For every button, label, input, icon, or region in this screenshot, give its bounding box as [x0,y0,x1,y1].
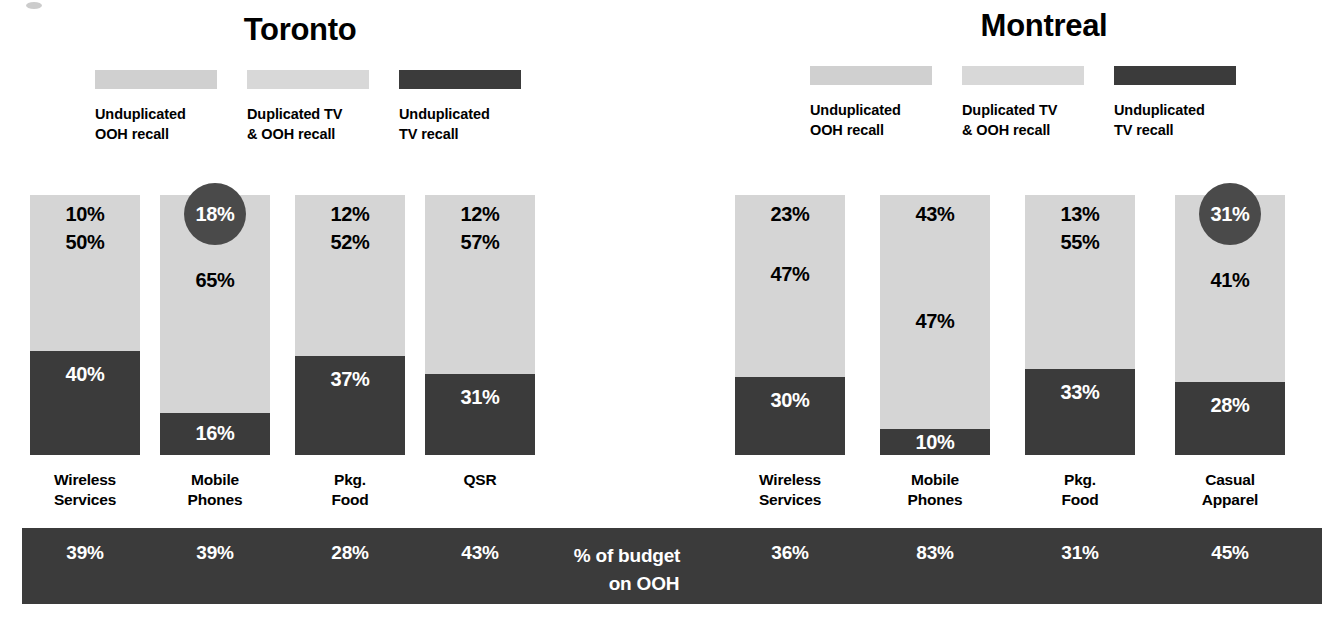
legend-label-unduplicated-ooh: Unduplicated OOH recall [95,104,186,144]
legend-label-duplicated-tv-ooh: Duplicated TV & OOH recall [962,100,1057,140]
legend-label-unduplicated-tv: Unduplicated TV recall [399,104,490,144]
callout-badge-unduplicated-ooh: 31% [1199,183,1261,245]
budget-value-montreal-mobile-phones: 83% [880,542,990,564]
bar-segment-dark: 28% [1175,382,1285,455]
bar-value-unduplicated-tv: 28% [1175,394,1285,417]
legend-label-duplicated-tv-ooh: Duplicated TV & OOH recall [247,104,342,144]
bar-value-unduplicated-tv: 30% [735,389,845,412]
bar-segment-dark: 10% [880,429,990,455]
legend-item-duplicated-tv-ooh: Duplicated TV & OOH recall [247,70,399,144]
legend-swatch-unduplicated-ooh [95,70,217,89]
category-label-line1: Pkg. [1064,471,1096,488]
legend-item-unduplicated-ooh: Unduplicated OOH recall [810,66,962,140]
legend-swatch-duplicated-tv-ooh [247,70,369,89]
chart-canvas: Toronto Montreal Unduplicated OOH recall… [0,0,1344,632]
category-label-montreal-wireless-services: Wireless Services [735,470,845,511]
category-label-line1: Wireless [54,471,116,488]
legend-swatch-unduplicated-tv [399,70,521,89]
legend-label-unduplicated-ooh: Unduplicated OOH recall [810,100,901,140]
legend-label-line2: TV recall [1114,122,1174,138]
legend-swatch-duplicated-tv-ooh [962,66,1084,85]
category-label-line2: Phones [908,491,963,508]
budget-caption-line2: on OOH [522,570,732,598]
legend-item-unduplicated-tv: Unduplicated TV recall [399,70,551,144]
legend-item-unduplicated-ooh: Unduplicated OOH recall [95,70,247,144]
bar-value-duplicated-tv-ooh: 47% [735,263,845,286]
category-label-line2: Services [759,491,821,508]
budget-value-toronto-qsr: 43% [425,542,535,564]
legend-label-unduplicated-tv: Unduplicated TV recall [1114,100,1205,140]
legend-label-line2: TV recall [399,126,459,142]
category-label-line1: QSR [464,471,497,488]
category-label-toronto-wireless-services: Wireless Services [30,470,140,511]
bar-group-montreal: 23% 47% 30% 43% 47% 10% 13% 55% 33 [0,195,1344,455]
bar-segment-light: 23% 47% [735,195,845,377]
stacked-bar-montreal-casual-apparel: 31% 41% 28% [1175,195,1285,455]
legend-label-line1: Unduplicated [399,106,490,122]
bar-value-duplicated-tv-ooh: 41% [1175,269,1285,292]
budget-value-toronto-wireless-services: 39% [30,542,140,564]
bar-value-unduplicated-tv: 33% [1025,381,1135,404]
category-label-line1: Mobile [191,471,239,488]
bar-value-unduplicated-ooh: 23% [735,203,845,226]
category-label-line2: Food [1061,491,1098,508]
category-label-line2: Apparel [1202,491,1258,508]
budget-value-toronto-pkg-food: 28% [295,542,405,564]
legend-swatch-unduplicated-tv [1114,66,1236,85]
category-label-line2: Food [331,491,368,508]
category-label-toronto-pkg-food: Pkg. Food [295,470,405,511]
bar-segment-light: 31% 41% [1175,195,1285,382]
bar-segment-dark: 33% [1025,369,1135,455]
bar-value-duplicated-tv-ooh: 47% [880,310,990,333]
legend-label-line2: OOH recall [810,122,884,138]
legend-label-line2: & OOH recall [247,126,335,142]
category-label-line2: Phones [188,491,243,508]
legend-label-line1: Duplicated TV [962,102,1057,118]
budget-summary-bar: 39% 39% 28% 43% % of budget on OOH 36% 8… [22,528,1322,604]
budget-value-montreal-pkg-food: 31% [1025,542,1135,564]
scan-artifact [26,2,42,9]
legend-swatch-unduplicated-ooh [810,66,932,85]
legend-label-line1: Unduplicated [810,102,901,118]
category-label-montreal-mobile-phones: Mobile Phones [880,470,990,511]
stacked-bar-montreal-wireless-services: 23% 47% 30% [735,195,845,455]
legend-label-line1: Duplicated TV [247,106,342,122]
budget-value-montreal-wireless-services: 36% [735,542,845,564]
category-label-line2: Services [54,491,116,508]
category-label-montreal-pkg-food: Pkg. Food [1025,470,1135,511]
budget-value-montreal-casual-apparel: 45% [1175,542,1285,564]
budget-caption-line1: % of budget [574,545,681,566]
bar-value-unduplicated-ooh: 43% [880,203,990,226]
panel-title-toronto: Toronto [0,12,600,48]
stacked-bar-montreal-mobile-phones: 43% 47% 10% [880,195,990,455]
bar-value-unduplicated-ooh: 13% [1025,203,1135,226]
bar-segment-light: 13% 55% [1025,195,1135,369]
legend-label-line2: OOH recall [95,126,169,142]
legend-label-line1: Unduplicated [1114,102,1205,118]
legend-item-duplicated-tv-ooh: Duplicated TV & OOH recall [962,66,1114,140]
category-label-toronto-mobile-phones: Mobile Phones [160,470,270,511]
category-label-toronto-qsr: QSR [425,470,535,490]
bar-segment-light: 43% 47% [880,195,990,429]
legend-toronto: Unduplicated OOH recall Duplicated TV & … [95,70,555,144]
category-label-montreal-casual-apparel: Casual Apparel [1175,470,1285,511]
legend-label-line2: & OOH recall [962,122,1050,138]
panel-title-montreal: Montreal [744,8,1344,44]
bar-value-unduplicated-tv: 10% [880,431,990,454]
category-label-line1: Casual [1205,471,1255,488]
legend-montreal: Unduplicated OOH recall Duplicated TV & … [810,66,1270,140]
bar-value-duplicated-tv-ooh: 55% [1025,231,1135,254]
category-label-line1: Wireless [759,471,821,488]
category-label-line1: Pkg. [334,471,366,488]
budget-value-toronto-mobile-phones: 39% [160,542,270,564]
bar-segment-dark: 30% [735,377,845,455]
category-label-line1: Mobile [911,471,959,488]
stacked-bar-montreal-pkg-food: 13% 55% 33% [1025,195,1135,455]
budget-caption: % of budget on OOH [522,542,732,597]
legend-item-unduplicated-tv: Unduplicated TV recall [1114,66,1266,140]
legend-label-line1: Unduplicated [95,106,186,122]
